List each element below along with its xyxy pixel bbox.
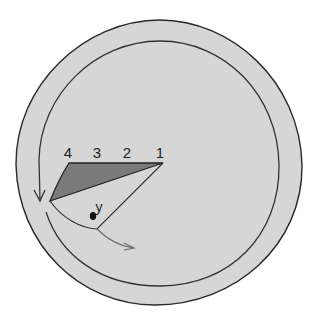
tick-label-4: 4 [64, 144, 72, 161]
diagram-canvas: 4 3 2 1 y [0, 0, 313, 319]
point-y-label: y [96, 199, 103, 215]
tick-label-2: 2 [123, 144, 131, 161]
tick-label-3: 3 [93, 144, 101, 161]
tick-label-1: 1 [156, 144, 164, 161]
